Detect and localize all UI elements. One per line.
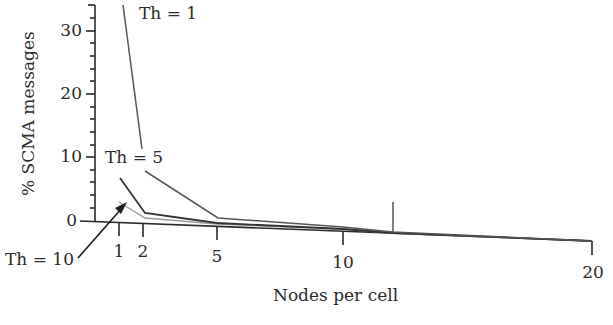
label-th5: Th = 5 xyxy=(105,147,163,167)
y-tick-30: 30 xyxy=(52,20,82,40)
y-tick-10: 10 xyxy=(52,146,82,166)
y-axis xyxy=(86,5,95,221)
x-axis-label: Nodes per cell xyxy=(273,285,398,305)
y-tick-0: 0 xyxy=(47,210,77,230)
x-tick-20: 20 xyxy=(573,262,613,282)
x-tick-5: 5 xyxy=(197,246,237,266)
series-th1 xyxy=(123,5,592,241)
label-th10: Th = 10 xyxy=(5,249,74,269)
line-chart xyxy=(0,0,613,325)
x-tick-2: 2 xyxy=(123,241,163,261)
y-axis-label: % SCMA messages xyxy=(18,31,38,196)
y-tick-20: 20 xyxy=(52,83,82,103)
label-th1: Th = 1 xyxy=(139,3,197,23)
x-tick-10: 10 xyxy=(323,252,363,272)
series-th10 xyxy=(119,202,592,241)
